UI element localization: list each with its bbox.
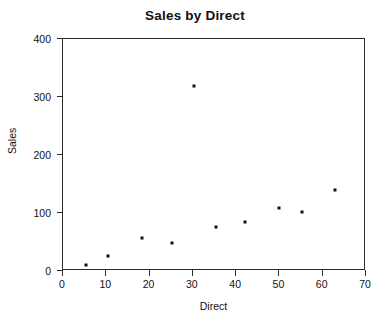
y-axis-tick-label: 200 bbox=[33, 149, 51, 161]
data-point bbox=[170, 242, 173, 245]
x-axis-tick-label: 40 bbox=[229, 278, 241, 290]
y-axis-tick: 300 bbox=[57, 96, 63, 97]
x-axis-tick bbox=[149, 270, 150, 276]
x-axis-tick-label: 50 bbox=[273, 278, 285, 290]
y-axis-label: Sales bbox=[6, 128, 18, 154]
plot-area: 0100200300400010203040506070 bbox=[62, 38, 365, 270]
scatter-chart: Sales by Direct 010020030040001020304050… bbox=[0, 0, 390, 329]
x-axis-label: Direct bbox=[62, 300, 365, 312]
x-axis-tick-label: 10 bbox=[99, 278, 111, 290]
y-axis-tick-label: 400 bbox=[33, 33, 51, 45]
chart-title: Sales by Direct bbox=[0, 8, 390, 23]
data-point bbox=[106, 255, 109, 258]
x-axis-tick-label: 20 bbox=[143, 278, 155, 290]
x-axis-tick-label: 60 bbox=[316, 278, 328, 290]
data-point bbox=[84, 263, 87, 266]
data-point bbox=[193, 85, 196, 88]
data-point bbox=[141, 237, 144, 240]
y-axis-tick: 200 bbox=[57, 154, 63, 155]
x-axis-tick bbox=[105, 270, 106, 276]
y-axis-tick-label: 0 bbox=[45, 265, 51, 277]
x-axis-tick-label: 0 bbox=[59, 278, 65, 290]
x-axis-tick bbox=[365, 270, 366, 276]
x-axis-tick bbox=[278, 270, 279, 276]
data-point bbox=[215, 226, 218, 229]
data-point bbox=[333, 188, 336, 191]
data-point bbox=[277, 206, 280, 209]
y-axis-tick-label: 100 bbox=[33, 207, 51, 219]
y-axis-tick: 400 bbox=[57, 38, 63, 39]
x-axis-tick bbox=[62, 270, 63, 276]
x-axis-tick bbox=[322, 270, 323, 276]
data-point bbox=[244, 220, 247, 223]
y-axis-tick-label: 300 bbox=[33, 91, 51, 103]
x-axis-tick bbox=[192, 270, 193, 276]
y-axis-tick: 100 bbox=[57, 212, 63, 213]
data-point bbox=[300, 211, 303, 214]
x-axis-tick bbox=[235, 270, 236, 276]
x-axis-tick-label: 30 bbox=[186, 278, 198, 290]
x-axis-tick-label: 70 bbox=[359, 278, 371, 290]
